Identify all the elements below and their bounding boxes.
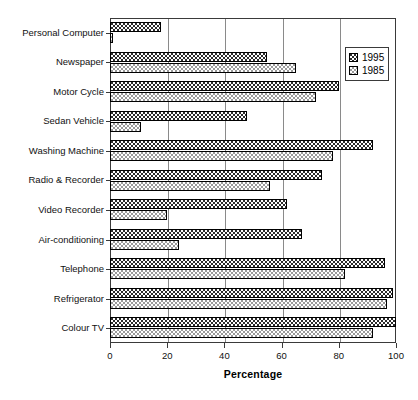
category-label: Sedan Vehicle: [0, 116, 104, 126]
legend-label-1985: 1985: [362, 65, 384, 76]
y-axis-tick: [106, 151, 110, 152]
bar-1995: [110, 288, 393, 298]
x-axis-label-20: 20: [162, 350, 173, 361]
bar-1985: [110, 33, 113, 43]
x-axis-title: Percentage: [110, 368, 396, 380]
bar-1995: [110, 52, 267, 62]
x-axis-tick-0: [110, 343, 111, 348]
bar-1995: [110, 22, 161, 32]
category-label: Telephone: [0, 264, 104, 274]
bar-1995: [110, 199, 287, 209]
bar-1995: [110, 81, 339, 91]
bar-group: Washing Machine: [110, 136, 396, 166]
legend-item-1995: 1995: [349, 51, 384, 63]
bar-group: Video Recorder: [110, 195, 396, 225]
bar-1985: [110, 63, 296, 73]
bar-1995: [110, 140, 373, 150]
bar-1995: [110, 317, 396, 327]
legend-swatch-1995: [349, 53, 358, 62]
category-label: Personal Computer: [0, 28, 104, 38]
x-axis-label-100: 100: [388, 350, 404, 361]
x-axis-tick-40: [224, 343, 225, 348]
bar-1985: [110, 240, 179, 250]
bar-group: Telephone: [110, 254, 396, 284]
y-axis-tick: [106, 269, 110, 270]
x-axis-tick-20: [167, 343, 168, 348]
y-axis-tick: [106, 180, 110, 181]
x-axis-label-60: 60: [276, 350, 287, 361]
bar-group: Refrigerator: [110, 284, 396, 314]
y-axis-tick: [106, 33, 110, 34]
category-label: Newspaper: [0, 57, 104, 67]
y-axis-tick: [106, 92, 110, 93]
chart-legend: 1995 1985: [345, 47, 389, 81]
legend-label-1995: 1995: [362, 52, 384, 63]
x-axis-tick-60: [282, 343, 283, 348]
category-label: Washing Machine: [0, 146, 104, 156]
x-axis-label-80: 80: [334, 350, 345, 361]
bar-1985: [110, 151, 333, 161]
x-axis-label-0: 0: [107, 350, 112, 361]
y-axis-tick: [106, 121, 110, 122]
category-label: Motor Cycle: [0, 87, 104, 97]
category-label: Radio & Recorder: [0, 175, 104, 185]
legend-item-1985: 1985: [349, 64, 384, 76]
bar-1985: [110, 269, 345, 279]
bar-1985: [110, 181, 270, 191]
y-axis-tick: [106, 328, 110, 329]
bar-group: Radio & Recorder: [110, 166, 396, 196]
bar-1995: [110, 170, 322, 180]
bar-group: Motor Cycle: [110, 77, 396, 107]
y-axis-tick: [106, 62, 110, 63]
bar-1995: [110, 111, 247, 121]
bar-1995: [110, 258, 385, 268]
bar-group: Colour TV: [110, 313, 396, 343]
category-label: Video Recorder: [0, 205, 104, 215]
bar-group: Personal Computer: [110, 18, 396, 48]
category-label: Refrigerator: [0, 294, 104, 304]
x-axis-tick-80: [339, 343, 340, 348]
bar-group: Sedan Vehicle: [110, 107, 396, 137]
y-axis-tick: [106, 210, 110, 211]
bar-1985: [110, 299, 387, 309]
y-axis-tick: [106, 299, 110, 300]
bar-group: Air-conditioning: [110, 225, 396, 255]
category-label: Colour TV: [0, 323, 104, 333]
bar-1985: [110, 92, 316, 102]
bar-1995: [110, 229, 302, 239]
bar-1985: [110, 122, 141, 132]
x-axis-label-40: 40: [219, 350, 230, 361]
y-axis-tick: [106, 240, 110, 241]
category-label: Air-conditioning: [0, 235, 104, 245]
x-axis-tick-100: [396, 343, 397, 348]
chart-container: Personal ComputerNewspaperMotor CycleSed…: [0, 0, 418, 400]
legend-swatch-1985: [349, 66, 358, 75]
bar-1985: [110, 210, 167, 220]
bar-1985: [110, 328, 373, 338]
